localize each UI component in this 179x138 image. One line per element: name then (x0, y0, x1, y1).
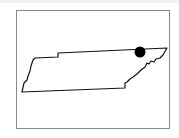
map-canvas (0, 0, 179, 138)
state-outline-tennessee (22, 48, 167, 92)
location-marker-dot[interactable] (135, 47, 146, 58)
